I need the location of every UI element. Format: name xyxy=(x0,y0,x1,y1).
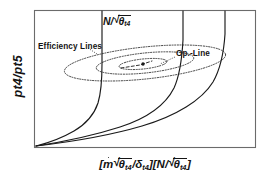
turbine-map-figure: pt4/pt5 [mθt4/δt4][N/θt4] N/θt4 Efficien… xyxy=(0,0,271,181)
x-axis-N: N xyxy=(157,158,165,170)
x-axis-theta-subscript-2: t4 xyxy=(180,163,187,172)
x-axis-mdot: m xyxy=(103,159,113,171)
speed-line-annotation: N/θt4 xyxy=(103,15,131,28)
x-axis-theta-subscript-1: t4 xyxy=(125,163,132,172)
efficiency-lines-annotation: Efficiency Lines xyxy=(38,43,102,51)
y-axis-slash: / xyxy=(11,74,25,78)
x-axis-sqrt-theta-1: θt4 xyxy=(113,158,132,171)
x-axis-label: [mθt4/δt4][N/θt4] xyxy=(34,158,256,171)
speed-label-theta-subscript: t4 xyxy=(124,20,130,27)
x-axis-close-bracket-2: ] xyxy=(187,158,191,170)
x-axis-sqrt-theta-2: θt4 xyxy=(168,158,187,171)
op-point-marker xyxy=(141,62,144,65)
chart-canvas xyxy=(0,0,271,181)
speed-label-N: N xyxy=(103,15,111,27)
y-axis-denominator: pt5 xyxy=(11,55,25,74)
speed-label-sqrt-theta: θt4 xyxy=(114,15,131,28)
y-axis-label: pt4/pt5 xyxy=(12,41,25,111)
y-axis-numerator: pt4 xyxy=(11,78,25,97)
op-line-annotation: Op.-Line xyxy=(176,50,210,58)
